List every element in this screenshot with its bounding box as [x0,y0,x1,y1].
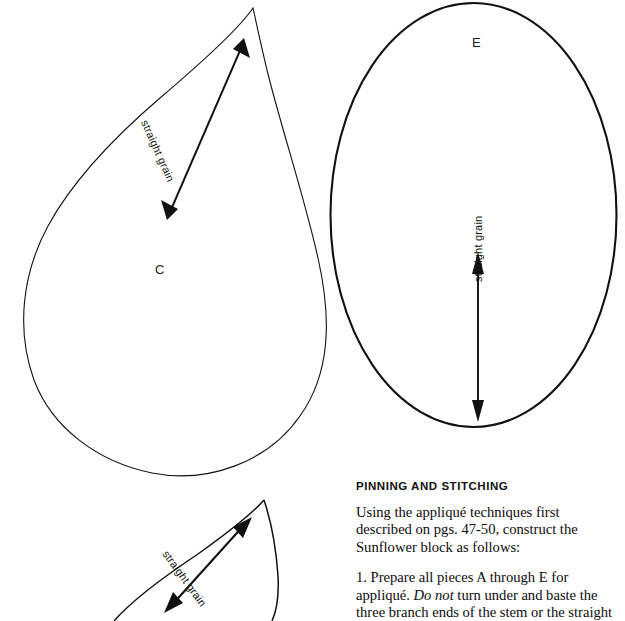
instructions-paragraph-step-1: 1. Prepare all pieces A through E for ap… [356,569,618,621]
piece-c-outline [24,8,327,476]
instructions-paragraph-intro: Using the appliqué techniques first desc… [356,504,618,556]
paragraph-run-emphasis: Do not [414,587,454,603]
piece-c-letter-label: C [155,262,164,277]
scanned-pattern-page: straight grain straight grain straight g… [0,0,625,621]
instructions-heading: PINNING AND STITCHING [356,480,618,492]
piece-partial-outline-right [264,500,278,621]
piece-c-group [24,8,327,476]
paragraph-run: Using the appliqué techniques first desc… [356,504,578,555]
instructions-column: PINNING AND STITCHING Using the appliqué… [356,480,618,621]
piece-partial-outline [114,500,264,621]
piece-e-grain-label: straight grain [472,216,484,282]
piece-e-letter-label: E [472,35,481,50]
